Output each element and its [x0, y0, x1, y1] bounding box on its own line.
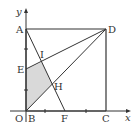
- y-axis-arrow-icon: [24, 8, 28, 13]
- label-F: F: [61, 113, 68, 124]
- x-axis-label: x: [125, 112, 131, 123]
- geometry-diagram: y x A D E I H O B F C: [0, 0, 138, 126]
- label-C: C: [102, 113, 110, 124]
- shaded-region: [26, 62, 52, 111]
- label-E: E: [17, 64, 24, 75]
- label-B: B: [28, 113, 35, 124]
- label-H: H: [54, 81, 63, 92]
- label-A: A: [15, 24, 24, 35]
- label-D: D: [108, 24, 116, 35]
- label-O: O: [15, 113, 23, 124]
- segment-ED: [26, 29, 106, 69]
- y-axis-label: y: [15, 6, 22, 17]
- label-I: I: [40, 49, 44, 60]
